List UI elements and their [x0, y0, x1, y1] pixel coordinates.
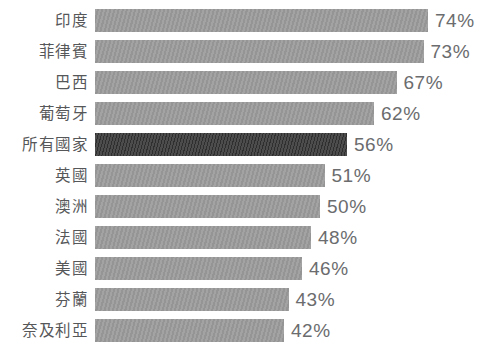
bar	[95, 133, 347, 156]
bar-value: 62%	[381, 103, 421, 125]
bar-value: 48%	[318, 227, 358, 249]
bar-value: 56%	[354, 134, 394, 156]
bar-row: 美國 46%	[0, 257, 488, 280]
bar	[95, 226, 311, 249]
bar-value: 74%	[435, 10, 475, 32]
bar-row: 澳洲 50%	[0, 195, 488, 218]
bar	[95, 257, 302, 280]
bar-value: 46%	[309, 258, 349, 280]
bar	[95, 288, 289, 311]
bar-row: 英國 51%	[0, 164, 488, 187]
bar-value: 42%	[291, 320, 331, 342]
bar	[95, 71, 397, 94]
bar-row: 奈及利亞 42%	[0, 319, 488, 342]
bar-label: 印度	[0, 9, 95, 32]
bar-row: 巴西 67%	[0, 71, 488, 94]
bar-value: 51%	[332, 165, 372, 187]
bar-label: 巴西	[0, 71, 95, 94]
bar-label: 葡萄牙	[0, 102, 95, 125]
horizontal-bar-chart: 印度 74% 菲律賓 73% 巴西 67% 葡萄牙 62% 所有國家 56% 英…	[0, 0, 488, 350]
bar	[95, 40, 424, 63]
bar-row: 所有國家 56%	[0, 133, 488, 156]
bar-row: 菲律賓 73%	[0, 40, 488, 63]
bar-row: 葡萄牙 62%	[0, 102, 488, 125]
bar-label: 澳洲	[0, 195, 95, 218]
bar	[95, 9, 428, 32]
bar	[95, 195, 320, 218]
bar-label: 英國	[0, 164, 95, 187]
bar	[95, 102, 374, 125]
bar-label: 美國	[0, 257, 95, 280]
bar-value: 67%	[404, 72, 444, 94]
bar	[95, 319, 284, 342]
bar-rows: 印度 74% 菲律賓 73% 巴西 67% 葡萄牙 62% 所有國家 56% 英…	[0, 9, 488, 342]
bar-row: 芬蘭 43%	[0, 288, 488, 311]
bar-value: 50%	[327, 196, 367, 218]
bar-value: 43%	[296, 289, 336, 311]
bar-value: 73%	[431, 41, 471, 63]
bar-label: 芬蘭	[0, 288, 95, 311]
bar-label: 所有國家	[0, 133, 95, 156]
bar-row: 印度 74%	[0, 9, 488, 32]
bar	[95, 164, 325, 187]
bar-label: 奈及利亞	[0, 319, 95, 342]
bar-row: 法國 48%	[0, 226, 488, 249]
bar-label: 法國	[0, 226, 95, 249]
bar-label: 菲律賓	[0, 40, 95, 63]
